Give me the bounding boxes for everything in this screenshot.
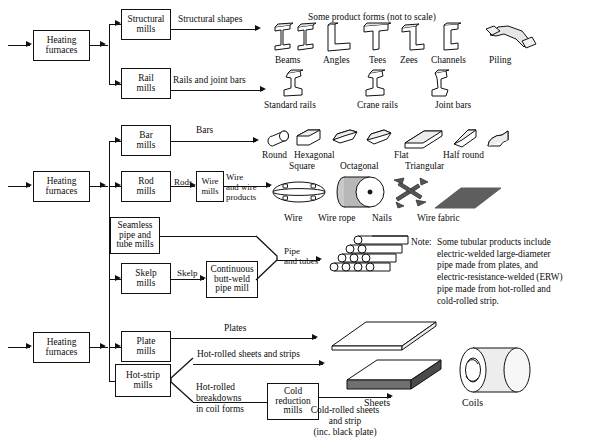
box-label: Heatingfurnaces	[46, 338, 78, 358]
flow-line	[171, 29, 258, 30]
product-label-crane-rails: Crane rails	[357, 100, 398, 110]
label-bars: Bars	[196, 125, 213, 135]
product-label-zees: Zees	[400, 55, 418, 65]
box-label: Platemills	[137, 337, 156, 357]
note-block: Note: Some tubular products include elec…	[411, 237, 563, 307]
product-label-half-round: Half round	[443, 150, 484, 160]
label-skelp: Skelp	[177, 269, 198, 279]
box-continuous-butt-weld-pipe-mill[interactable]: Continuousbutt-weldpipe mill	[206, 261, 258, 298]
label-hot-rolled-breakdowns: Hot-rolledbreakdownsin coil forms	[196, 382, 264, 415]
product-label-hexagonal: Hexagonal	[294, 150, 335, 160]
product-label-beams: Beams	[275, 55, 301, 65]
box-label: Railmills	[137, 74, 156, 94]
sheets-icon	[345, 356, 455, 396]
plate-icon	[330, 316, 440, 354]
product-label-piling: Piling	[489, 55, 511, 65]
note-line: pipe made from plates, and	[437, 260, 538, 270]
box-structural-mills[interactable]: Structuralmills	[121, 9, 171, 40]
flow-line	[160, 236, 256, 237]
box-label: Hot-stripmills	[126, 371, 160, 391]
pipe-bundle-icon	[328, 234, 414, 282]
arrow-head	[316, 256, 322, 262]
box-rod-mills[interactable]: Rodmills	[121, 171, 171, 202]
rolling-mill-flow-diagram: Some product forms (not to scale) Heatin…	[0, 0, 591, 448]
product-label-flat: Flat	[394, 150, 409, 160]
label-wire-and-wire-products: Wireand wireproducts	[226, 172, 268, 203]
box-label: Heatingfurnaces	[46, 177, 78, 197]
flow-line	[109, 238, 110, 280]
box-rail-mills[interactable]: Railmills	[121, 68, 171, 99]
box-label: Wiremills	[201, 177, 218, 195]
product-label-square: Square	[289, 161, 315, 171]
note-line: Some tubular products include	[437, 237, 551, 247]
arrow-head	[255, 25, 261, 31]
box-wire-mills[interactable]: Wiremills	[196, 171, 224, 202]
product-label-joint-bars: Joint bars	[435, 100, 471, 110]
flow-line	[171, 141, 256, 142]
flow-line	[171, 90, 263, 91]
product-label-triangular: Triangular	[405, 161, 444, 171]
arrow-head	[26, 41, 32, 47]
label-plates: Plates	[224, 323, 246, 333]
box-heating-furnaces-1[interactable]: Heatingfurnaces	[33, 30, 90, 61]
arrow-head	[260, 86, 266, 92]
note-line: cold-rolled strip.	[437, 296, 499, 306]
product-label-octagonal: Octagonal	[340, 161, 379, 171]
section-heading: Some product forms (not to scale)	[308, 12, 436, 22]
arrow-head	[26, 343, 32, 349]
label-cold-rolled-sheets: Cold-rolled sheetsand strip(inc. black p…	[290, 405, 400, 438]
box-hot-strip-mills[interactable]: Hot-stripmills	[115, 364, 171, 397]
product-label-standard-rails: Standard rails	[264, 100, 316, 110]
note-line: pipe made from hot-rolled and	[437, 284, 551, 294]
arrow-head	[253, 137, 259, 143]
box-label: Continuousbutt-weldpipe mill	[210, 265, 253, 295]
box-label: Skelpmills	[135, 269, 156, 289]
flow-line	[277, 260, 320, 261]
product-label-angles: Angles	[323, 55, 350, 65]
product-label-nails: Nails	[372, 213, 392, 223]
product-label-channels: Channels	[431, 55, 466, 65]
box-label: Rodmills	[137, 177, 156, 197]
arrow-head	[100, 343, 106, 349]
label-rails-and-joint-bars: Rails and joint bars	[173, 75, 246, 85]
box-heating-furnaces-2[interactable]: Heatingfurnaces	[33, 171, 90, 202]
flow-line	[193, 402, 267, 403]
box-label: Barmills	[137, 131, 156, 151]
label-pipe-and-tubes: Pipeand tubes	[284, 246, 332, 267]
product-label-wire-rope: Wire rope	[318, 213, 355, 223]
box-plate-mills[interactable]: Platemills	[121, 331, 171, 362]
box-bar-mills[interactable]: Barmills	[121, 125, 171, 156]
box-label: Structuralmills	[128, 15, 165, 35]
box-label: Heatingfurnaces	[46, 36, 78, 56]
product-label-sheets: Sheets	[364, 397, 390, 408]
note-line: electric-resistance-welded (ERW)	[437, 272, 563, 282]
arrow-head	[100, 41, 106, 47]
coils-icon	[455, 344, 531, 396]
product-label-wire: Wire	[284, 213, 302, 223]
flow-line	[193, 364, 323, 365]
flow-line	[224, 186, 270, 187]
structural-shape-icons	[272, 23, 572, 57]
label-structural-shapes: Structural shapes	[178, 14, 242, 24]
product-label-tees: Tees	[369, 55, 386, 65]
arrow-head	[100, 182, 106, 188]
rail-product-icons	[280, 70, 500, 98]
box-label: Seamlesspipe andtube mills	[116, 221, 153, 251]
box-skelp-mills[interactable]: Skelpmills	[121, 263, 171, 294]
wire-product-icons	[272, 176, 502, 212]
box-seamless-pipe-tube-mills[interactable]: Seamlesspipe andtube mills	[110, 217, 160, 254]
flow-line	[171, 338, 316, 339]
bar-shape-icons	[262, 128, 512, 152]
flow-line	[109, 24, 110, 84]
product-label-wire-fabric: Wire fabric	[417, 213, 460, 223]
product-label-round: Round	[262, 150, 287, 160]
arrow-head	[319, 360, 325, 366]
note-prefix: Note:	[411, 237, 432, 247]
product-label-coils: Coils	[462, 397, 483, 408]
note-line: electric-welded large-diameter	[437, 249, 551, 259]
box-heating-furnaces-3[interactable]: Heatingfurnaces	[33, 332, 90, 363]
flow-line	[109, 279, 110, 381]
label-hot-rolled-sheets-strips: Hot-rolled sheets and strips	[197, 349, 300, 359]
arrow-head	[312, 334, 318, 340]
arrow-head	[26, 182, 32, 188]
